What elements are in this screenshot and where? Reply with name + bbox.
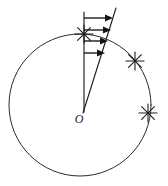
star-marker-upper-right [126,52,144,70]
geometry-diagram: O [0,0,168,186]
velocity-profile-line [83,8,116,113]
star-marker-top [75,25,93,43]
velocity-arrow-4 [84,50,105,57]
origin-label: O [75,112,84,126]
velocity-arrow-1 [84,15,113,22]
star-marker-right [139,104,157,122]
figure-container: O [0,0,168,186]
